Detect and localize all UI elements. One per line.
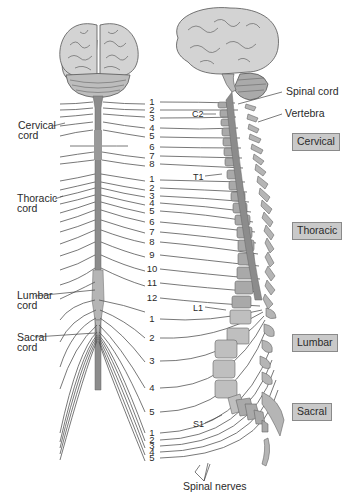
- cauda-equina-front: [60, 300, 145, 461]
- label-spinal-cord: Spinal cord: [286, 86, 339, 96]
- svg-text:2: 2: [149, 332, 154, 343]
- svg-text:1: 1: [149, 313, 154, 324]
- svg-text:4: 4: [149, 382, 154, 393]
- brain-front-view: [60, 24, 138, 98]
- diagram-canvas: 1 2 3 4 5 6 7 8 1 2 3 4 5 6 7 8 9 10 11 …: [0, 0, 353, 497]
- label-sacral-cord: Sacral cord: [17, 332, 47, 352]
- nerve-number-column: 1 2 3 4 5 6 7 8 1 2 3 4 5 6 7 8 9 10 11 …: [147, 96, 158, 463]
- svg-text:8: 8: [149, 158, 154, 169]
- label-cervical-cord: Cervical cord: [18, 120, 56, 140]
- nerve-roots-front: [60, 102, 145, 299]
- label-lumbar-cord: Lumbar cord: [17, 290, 53, 310]
- svg-text:5: 5: [149, 130, 154, 141]
- svg-text:8: 8: [149, 236, 154, 247]
- svg-text:12: 12: [147, 292, 158, 303]
- nerve-lines-side: [160, 102, 278, 458]
- svg-text:S1: S1: [193, 419, 204, 429]
- brain-side-view: [176, 8, 278, 100]
- region-thoracic: Thoracic: [292, 222, 342, 240]
- label-spinal-nerves: Spinal nerves: [183, 481, 247, 491]
- svg-text:11: 11: [147, 277, 157, 288]
- svg-text:10: 10: [147, 263, 158, 274]
- region-lumbar: Lumbar: [292, 334, 338, 352]
- svg-text:5: 5: [149, 205, 154, 216]
- label-thoracic-cord: Thoracic cord: [17, 193, 57, 213]
- svg-text:3: 3: [149, 355, 154, 366]
- label-vertebra: Vertebra: [285, 108, 325, 118]
- svg-text:5: 5: [149, 406, 154, 417]
- svg-text:9: 9: [149, 249, 154, 260]
- spinal-nerves-diagram: 1 2 3 4 5 6 7 8 1 2 3 4 5 6 7 8 9 10 11 …: [0, 0, 353, 497]
- svg-text:5: 5: [149, 452, 154, 463]
- svg-text:L1: L1: [193, 303, 203, 313]
- svg-text:T1: T1: [193, 172, 204, 182]
- svg-text:C2: C2: [192, 109, 204, 119]
- region-cervical: Cervical: [292, 133, 340, 151]
- region-sacral: Sacral: [292, 403, 332, 421]
